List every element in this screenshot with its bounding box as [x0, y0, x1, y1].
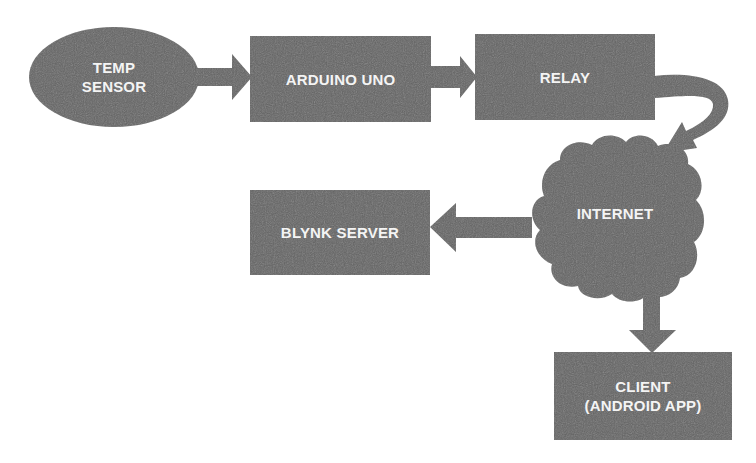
temp-sensor-label: TEMP SENSOR [44, 52, 184, 102]
arrow-internet-to-blynk [430, 203, 532, 252]
temp-sensor-line1: TEMP [93, 58, 135, 77]
temp-sensor-line2: SENSOR [82, 77, 147, 96]
internet-label: INTERNET [555, 200, 675, 226]
arrow-arduino-to-relay [430, 56, 477, 98]
relay-text: RELAY [540, 68, 590, 87]
client-line2: (ANDROID APP) [584, 396, 701, 415]
blynk-text: BLYNK SERVER [281, 223, 399, 242]
arduino-text: ARDUINO UNO [286, 70, 396, 89]
client-line1: CLIENT [615, 377, 670, 396]
relay-label: RELAY [475, 34, 655, 120]
blynk-label: BLYNK SERVER [250, 190, 430, 275]
client-label: CLIENT (ANDROID APP) [554, 356, 732, 436]
internet-text: INTERNET [577, 204, 654, 223]
arduino-label: ARDUINO UNO [250, 36, 431, 122]
arrow-temp-to-arduino [196, 54, 252, 100]
arrow-relay-to-internet [654, 75, 728, 153]
